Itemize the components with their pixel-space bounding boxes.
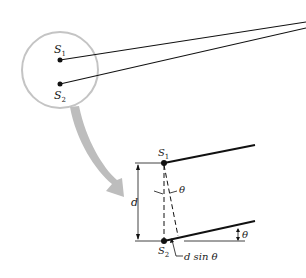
angle-mark-right <box>170 191 177 193</box>
path-diff-label: d sin θ <box>184 251 218 262</box>
angle-arrow-up-icon <box>236 228 240 232</box>
zoom-arrow-icon <box>70 106 124 197</box>
detail-ray-1 <box>164 145 255 163</box>
dim-arrow-up-icon <box>136 164 140 170</box>
theta-right-label: θ <box>242 229 248 240</box>
separation-label: d <box>131 196 138 209</box>
dim-arrow-down-icon <box>136 234 140 240</box>
inset-s2-label: S2 <box>54 89 66 104</box>
perpendicular-dashed <box>164 165 178 236</box>
angle-arrow-down-icon <box>236 237 240 241</box>
angle-mark-left <box>154 191 163 194</box>
detail-s1-label: S1 <box>158 147 169 161</box>
source-2-dot <box>58 82 63 87</box>
detail-s2-label: S2 <box>158 245 169 259</box>
theta-top-label: θ <box>179 184 185 195</box>
path-diff-pointer <box>172 240 183 256</box>
double-slit-diagram: S1 S2 d θ θ d sin θ S1 S2 <box>0 0 306 278</box>
ray-2 <box>60 28 306 84</box>
ray-1 <box>60 22 306 60</box>
inset-s1-label: S1 <box>54 43 66 58</box>
source-1-dot <box>58 58 63 63</box>
